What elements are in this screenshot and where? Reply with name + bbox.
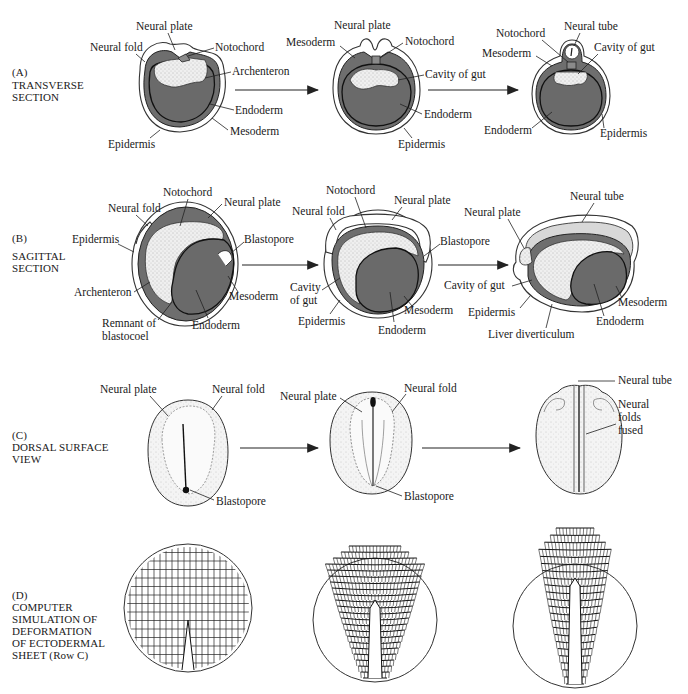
row-c: (C) DORSAL SURFACE VIEW Neural plate Neu… bbox=[12, 374, 672, 508]
label-endoderm: Endoderm bbox=[596, 315, 644, 327]
label-notochord: Notochord bbox=[163, 186, 212, 198]
gut-cavity bbox=[350, 69, 399, 89]
label-neural-folds-fused-2: folds bbox=[618, 411, 642, 423]
label-neural-tube: Neural tube bbox=[564, 20, 618, 32]
label-cavity-of-gut: Cavity of gut bbox=[444, 279, 505, 292]
label-neural-folds-fused-1: Neural bbox=[618, 398, 649, 410]
notochord bbox=[567, 62, 576, 69]
label-notochord: Notochord bbox=[496, 27, 545, 39]
row-d-title: (D) COMPUTER SIMULATION OF DEFORMATION O… bbox=[12, 589, 108, 662]
simulation-stage-3 bbox=[513, 528, 637, 688]
label-liver-diverticulum: Liver diverticulum bbox=[488, 328, 575, 340]
label-mesoderm: Mesoderm bbox=[482, 47, 531, 59]
row-a: (A) TRANSVERSE SECTION Neural plate Neur… bbox=[12, 19, 655, 151]
dorsal-stage-2 bbox=[330, 392, 412, 494]
label-blastopore: Blastopore bbox=[440, 235, 490, 248]
label-mesoderm: Mesoderm bbox=[230, 125, 279, 137]
label-neural-plate: Neural plate bbox=[224, 196, 281, 209]
label-of-gut: of gut bbox=[290, 294, 318, 307]
dorsal-stage-1 bbox=[148, 400, 228, 506]
label-epidermis: Epidermis bbox=[468, 306, 516, 319]
simulation-stage-2 bbox=[313, 546, 437, 682]
label-blastopore: Blastopore bbox=[244, 233, 294, 246]
label-neural-plate: Neural plate bbox=[464, 206, 521, 219]
label-cavity: Cavity bbox=[290, 281, 321, 294]
gut-cavity bbox=[554, 72, 587, 86]
neural-groove-mark bbox=[368, 600, 382, 678]
row-b-title: (B) SAGITTAL SECTION bbox=[12, 232, 68, 274]
label-remnant-of-blastocoel-1: Remnant of bbox=[102, 317, 156, 329]
label-neural-tube: Neural tube bbox=[570, 190, 624, 202]
label-notochord: Notochord bbox=[215, 41, 264, 53]
label-neural-plate: Neural plate bbox=[136, 20, 193, 33]
label-neural-fold: Neural fold bbox=[212, 383, 265, 395]
label-archenteron: Archenteron bbox=[232, 65, 290, 77]
label-epidermis: Epidermis bbox=[72, 233, 120, 246]
label-notochord: Notochord bbox=[405, 35, 454, 47]
simulation-stage-1 bbox=[124, 544, 252, 672]
label-neural-fold: Neural fold bbox=[292, 205, 345, 217]
label-endoderm: Endoderm bbox=[424, 108, 472, 120]
label-endoderm: Endoderm bbox=[484, 124, 532, 136]
label-epidermis: Epidermis bbox=[298, 315, 346, 328]
label-mesoderm: Mesoderm bbox=[618, 296, 667, 308]
label-neural-fold: Neural fold bbox=[90, 41, 143, 53]
row-c-title: (C) DORSAL SURFACE VIEW bbox=[12, 429, 111, 465]
label-neural-plate: Neural plate bbox=[394, 194, 451, 207]
label-neural-plate: Neural plate bbox=[334, 19, 391, 32]
label-endoderm: Endoderm bbox=[235, 104, 283, 116]
label-blastopore: Blastopore bbox=[404, 490, 454, 503]
notochord bbox=[372, 56, 380, 64]
label-endoderm: Endoderm bbox=[192, 319, 240, 331]
anterior-groove bbox=[370, 397, 376, 407]
label-neural-plate: Neural plate bbox=[100, 383, 157, 396]
label-cavity-of-gut: Cavity of gut bbox=[425, 68, 486, 81]
label-neural-fold: Neural fold bbox=[404, 382, 457, 394]
label-neural-plate: Neural plate bbox=[280, 390, 337, 403]
label-blastopore: Blastopore bbox=[216, 495, 266, 508]
row-d: (D) COMPUTER SIMULATION OF DEFORMATION O… bbox=[12, 528, 637, 688]
row-a-title: (A) TRANSVERSE SECTION bbox=[12, 66, 87, 103]
row-b: (B) SAGITTAL SECTION Notochord Neural fo… bbox=[12, 184, 667, 342]
neural-groove-mark bbox=[568, 578, 582, 684]
label-cavity-of-gut: Cavity of gut bbox=[594, 41, 655, 54]
label-mesoderm: Mesoderm bbox=[229, 290, 278, 302]
label-epidermis: Epidermis bbox=[398, 138, 446, 151]
label-mesoderm: Mesoderm bbox=[286, 36, 335, 48]
label-neural-folds-fused-3: fused bbox=[618, 424, 643, 436]
label-archenteron: Archenteron bbox=[74, 286, 132, 298]
label-neural-fold: Neural fold bbox=[108, 202, 161, 214]
transverse-stage-3 bbox=[532, 40, 610, 134]
sagittal-stage-1 bbox=[132, 202, 238, 326]
label-neural-tube: Neural tube bbox=[618, 374, 672, 386]
sagittal-stage-2 bbox=[324, 210, 432, 318]
label-remnant-of-blastocoel-2: blastocoel bbox=[102, 330, 149, 342]
label-endoderm: Endoderm bbox=[378, 324, 426, 336]
neurulation-figure: (A) TRANSVERSE SECTION Neural plate Neur… bbox=[0, 0, 688, 694]
dorsal-stage-3 bbox=[536, 385, 622, 494]
label-epidermis: Epidermis bbox=[108, 138, 156, 151]
transverse-stage-2 bbox=[333, 39, 420, 134]
label-notochord: Notochord bbox=[326, 184, 375, 196]
blastopore bbox=[183, 487, 189, 493]
label-epidermis: Epidermis bbox=[600, 127, 648, 140]
